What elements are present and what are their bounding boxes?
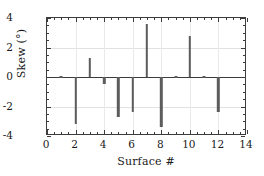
- y-axis-tick-major: [47, 107, 51, 108]
- x-axis-tick-label: 8: [148, 138, 172, 150]
- x-axis-tick-minor: [240, 18, 241, 20]
- x-axis-tick-minor: [118, 18, 119, 20]
- plot-area: [46, 17, 246, 135]
- x-axis-tick-minor: [147, 18, 148, 20]
- x-axis-tick-minor: [61, 18, 62, 20]
- x-axis-tick-minor: [154, 132, 155, 134]
- x-axis-tick-label: 0: [34, 138, 58, 150]
- y-axis-tick-minor: [47, 62, 49, 63]
- x-axis-tick-major: [76, 18, 77, 22]
- y-axis-tick-major: [47, 48, 51, 49]
- x-axis-tick-major: [190, 130, 191, 134]
- plot-inner: [47, 18, 245, 134]
- y-axis-tick-label: -2: [3, 100, 13, 112]
- y-axis-tick-major: [241, 18, 245, 19]
- data-bar: [146, 24, 148, 77]
- x-axis-tick-minor: [68, 18, 69, 20]
- x-axis-tick-major: [218, 18, 219, 22]
- gridline-vertical: [104, 18, 105, 134]
- y-axis-tick-minor: [243, 99, 245, 100]
- data-point: [203, 76, 206, 78]
- gridline-vertical: [133, 18, 134, 134]
- x-axis-tick-minor: [226, 18, 227, 20]
- y-axis-tick-major: [241, 107, 245, 108]
- y-axis-tick-label: 0: [6, 70, 13, 82]
- x-axis-tick-minor: [68, 132, 69, 134]
- x-axis-tick-minor: [90, 132, 91, 134]
- y-axis-tick-minor: [243, 84, 245, 85]
- y-axis-title: Skew (°): [15, 0, 28, 109]
- y-axis-tick-minor: [243, 121, 245, 122]
- y-axis-tick-minor: [47, 92, 49, 93]
- x-axis-tick-label: 2: [63, 138, 87, 150]
- y-axis-tick-minor: [47, 114, 49, 115]
- y-axis-tick-minor: [243, 25, 245, 26]
- x-axis-tick-minor: [183, 18, 184, 20]
- x-axis-tick-minor: [97, 132, 98, 134]
- x-axis-tick-major: [76, 130, 77, 134]
- y-axis-tick-minor: [47, 84, 49, 85]
- x-axis-tick-label: 12: [205, 138, 229, 150]
- data-bar: [117, 77, 119, 117]
- data-bar: [74, 77, 76, 124]
- x-axis-tick-major: [161, 18, 162, 22]
- y-axis-tick-minor: [243, 55, 245, 56]
- x-axis-tick-minor: [168, 132, 169, 134]
- data-bar: [160, 77, 162, 127]
- x-axis-tick-minor: [211, 132, 212, 134]
- y-axis-tick-minor: [47, 70, 49, 71]
- data-bar: [217, 77, 219, 112]
- x-axis-tick-major: [104, 130, 105, 134]
- x-axis-tick-label: 6: [120, 138, 144, 150]
- x-axis-tick-label: 4: [91, 138, 115, 150]
- x-axis-tick-major: [133, 130, 134, 134]
- x-axis-tick-major: [247, 18, 248, 22]
- x-axis-tick-minor: [204, 18, 205, 20]
- y-axis-tick-minor: [243, 70, 245, 71]
- y-axis-tick-minor: [243, 40, 245, 41]
- x-axis-tick-major: [47, 130, 48, 134]
- x-axis-tick-minor: [233, 18, 234, 20]
- y-axis-tick-minor: [47, 40, 49, 41]
- x-axis-tick-minor: [176, 18, 177, 20]
- x-axis-tick-label: 10: [177, 138, 201, 150]
- x-axis-tick-minor: [90, 18, 91, 20]
- x-axis-tick-major: [104, 18, 105, 22]
- y-axis-tick-minor: [243, 92, 245, 93]
- y-axis-tick-major: [47, 136, 51, 137]
- data-bar: [132, 77, 134, 112]
- x-axis-tick-minor: [233, 132, 234, 134]
- x-axis-tick-minor: [183, 132, 184, 134]
- x-axis-tick-minor: [111, 18, 112, 20]
- y-axis-tick-minor: [243, 129, 245, 130]
- x-axis-tick-minor: [197, 18, 198, 20]
- x-axis-tick-major: [133, 18, 134, 22]
- y-axis-tick-label: 2: [6, 41, 13, 53]
- x-axis-tick-minor: [54, 18, 55, 20]
- data-bar: [103, 77, 105, 84]
- x-axis-tick-minor: [126, 132, 127, 134]
- gridline-vertical: [218, 18, 219, 134]
- x-axis-tick-minor: [83, 132, 84, 134]
- x-axis-tick-minor: [176, 132, 177, 134]
- x-axis-tick-minor: [211, 18, 212, 20]
- x-axis-tick-label: 14: [234, 138, 258, 150]
- y-axis-tick-minor: [47, 33, 49, 34]
- x-axis-tick-major: [218, 130, 219, 134]
- data-bar: [189, 36, 191, 77]
- x-axis-tick-minor: [168, 18, 169, 20]
- y-axis-tick-minor: [243, 114, 245, 115]
- x-axis-tick-major: [161, 130, 162, 134]
- x-axis-tick-major: [247, 130, 248, 134]
- y-axis-tick-minor: [243, 33, 245, 34]
- x-axis-tick-minor: [204, 132, 205, 134]
- skew-bar-chart-figure: Skew (°) Surface # -4-2024 02468101214: [0, 0, 264, 176]
- x-axis-tick-minor: [118, 132, 119, 134]
- y-axis-tick-minor: [47, 25, 49, 26]
- data-point: [174, 76, 177, 78]
- data-point: [60, 76, 63, 78]
- y-axis-tick-minor: [47, 55, 49, 56]
- x-axis-tick-minor: [140, 18, 141, 20]
- y-axis-tick-minor: [47, 99, 49, 100]
- x-axis-tick-minor: [61, 132, 62, 134]
